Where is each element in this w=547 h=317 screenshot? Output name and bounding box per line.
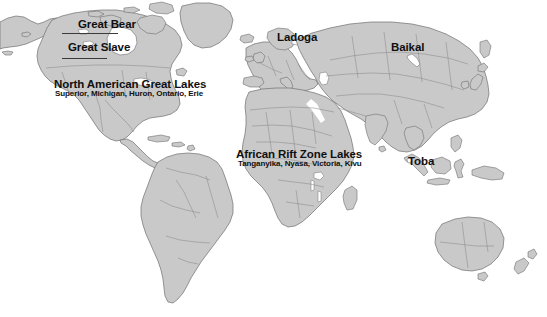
label-african-rift-zone-lakes-subtitle: Tanganyika, Nyasa, Victoria, Kivu <box>238 160 362 168</box>
great-bear-leader-line <box>62 33 118 34</box>
map-label-layer: Great Bear Great Slave North American Gr… <box>0 0 547 317</box>
label-great-bear: Great Bear <box>78 18 136 30</box>
great-slave-leader-line <box>62 58 107 59</box>
label-toba: Toba <box>408 155 434 167</box>
label-ladoga: Ladoga <box>277 31 317 43</box>
world-lakes-map: Great Bear Great Slave North American Gr… <box>0 0 547 317</box>
label-baikal: Baikal <box>391 41 424 53</box>
label-north-american-great-lakes-subtitle: Superior, Michigan, Huron, Ontario, Erie <box>55 90 203 98</box>
label-great-slave: Great Slave <box>68 41 130 53</box>
